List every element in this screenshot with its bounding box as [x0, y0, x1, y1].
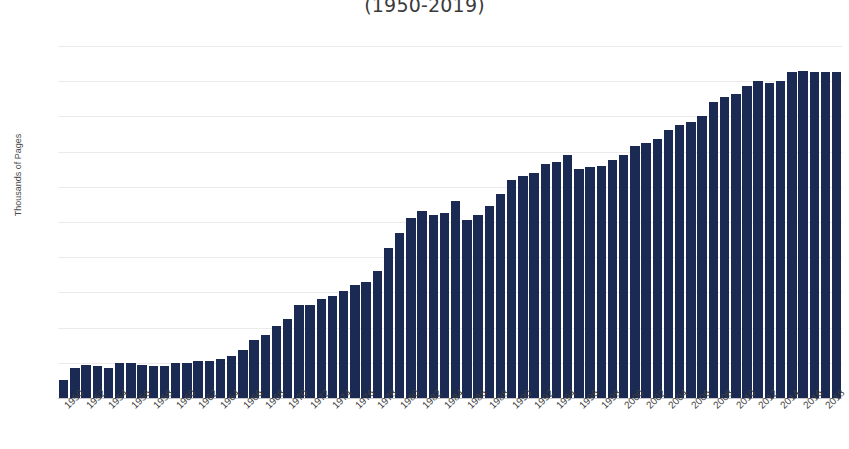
bar — [305, 305, 314, 398]
bar — [529, 173, 538, 398]
bar — [294, 305, 303, 398]
y-axis-title: Thousands of Pages — [13, 105, 23, 245]
bar — [507, 180, 516, 398]
bar — [473, 215, 482, 398]
bar — [238, 350, 247, 398]
bar — [742, 86, 751, 398]
bar — [630, 146, 639, 398]
bar — [485, 206, 494, 398]
bar — [384, 248, 393, 398]
bar — [361, 282, 370, 398]
bar — [765, 83, 774, 398]
bar — [518, 176, 527, 398]
bar — [406, 218, 415, 398]
chart-title: (1950-2019) — [0, 0, 849, 16]
bar — [283, 319, 292, 398]
bar — [317, 299, 326, 398]
bar — [686, 122, 695, 398]
bar — [462, 220, 471, 398]
bar — [720, 97, 729, 398]
bar — [451, 201, 460, 398]
bar — [597, 166, 606, 398]
bar — [821, 72, 830, 398]
bar — [697, 116, 706, 398]
bar — [272, 326, 281, 398]
bar — [552, 162, 561, 398]
bar — [675, 125, 684, 398]
bar — [563, 155, 572, 398]
bar — [653, 139, 662, 398]
bar — [339, 291, 348, 398]
bar — [496, 194, 505, 398]
bar — [810, 72, 819, 398]
bar-series — [58, 46, 842, 398]
bar — [541, 164, 550, 398]
bar — [395, 233, 404, 398]
bar — [574, 169, 583, 398]
bar — [753, 81, 762, 398]
bar — [832, 72, 841, 398]
bar — [709, 102, 718, 398]
bar — [373, 271, 382, 398]
x-axis-tick-labels: 1950195219541956195819601962196419661968… — [58, 399, 842, 449]
chart-page: (1950-2019) Thousands of Pages 200180160… — [0, 0, 849, 449]
plot-area: 200180160140120100806040200 — [58, 46, 842, 398]
bar — [776, 81, 785, 398]
bar — [328, 296, 337, 398]
bar — [641, 143, 650, 398]
bar — [440, 213, 449, 398]
bar — [417, 211, 426, 398]
bar — [429, 215, 438, 398]
bar — [731, 94, 740, 398]
bar — [664, 130, 673, 398]
bar — [261, 335, 270, 398]
bar — [798, 71, 807, 398]
bar — [350, 285, 359, 398]
bar — [619, 155, 628, 398]
bar — [59, 380, 68, 398]
bar — [608, 160, 617, 398]
bar — [585, 167, 594, 398]
bar — [787, 72, 796, 398]
